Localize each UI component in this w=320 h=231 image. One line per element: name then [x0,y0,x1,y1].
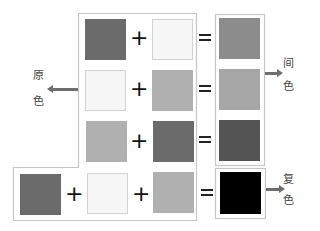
swatch-white [87,173,128,214]
swatch-dark [153,121,194,162]
swatch-white [152,19,193,60]
plus-sign: + [132,183,148,205]
plus-sign: + [65,183,81,205]
plus-sign: + [130,27,146,49]
plus-sign: + [130,78,146,100]
swatch-dark [20,174,61,215]
equals-sign [199,135,211,145]
swatch-result-3 [219,120,260,161]
swatch-mid [152,70,193,111]
arrow-right-icon [266,188,280,191]
label-primary-1: 原 [33,70,44,82]
label-tertiary-2: 色 [283,195,294,207]
equals-sign [199,84,211,94]
label-secondary-1: 间 [283,58,294,70]
swatch-white [85,70,126,111]
label-secondary-2: 色 [283,81,294,93]
label-primary-2: 色 [33,96,44,108]
arrow-right-icon [265,72,278,75]
swatch-mid [86,121,127,162]
swatch-dark [85,19,126,60]
label-tertiary-1: 复 [283,174,294,186]
swatch-mid [153,172,194,213]
arrow-left-icon [52,88,78,91]
equals-sign [199,33,211,43]
swatch-result-2 [219,69,260,110]
plus-sign: + [130,130,146,152]
swatch-result-1 [219,18,260,59]
equals-sign [201,188,213,198]
swatch-result-black [220,172,261,214]
